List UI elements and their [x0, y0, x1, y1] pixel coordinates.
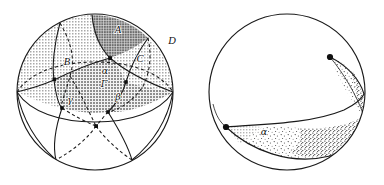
vertex-dot-icon — [53, 78, 57, 82]
label-C: C — [136, 53, 144, 64]
lune-dense-rim — [290, 116, 364, 157]
arc-hidden-node-down-right — [96, 126, 132, 160]
vertex-dot-icon — [60, 106, 64, 110]
label-gamma: γ — [67, 94, 73, 105]
vertex-dot-icon — [108, 56, 112, 60]
label-B: B — [64, 56, 71, 67]
arc-hidden-to-node-right — [96, 112, 108, 126]
lune-vertex-dots — [223, 54, 333, 130]
label-gamma-uppercase: Γ — [100, 78, 108, 89]
vertex-dot-icon — [94, 124, 98, 128]
arc-lune-upper — [226, 94, 364, 127]
vertex-dot-icon — [106, 110, 110, 114]
label-beta: β — [114, 91, 121, 102]
spherical-geometry-figure: A B C D α Γ γ β — [0, 0, 384, 185]
label-alpha: α — [102, 65, 109, 76]
vertex-dot-icon — [124, 80, 128, 84]
arc-lower-left — [54, 108, 62, 160]
arc-lune-lower-extension — [213, 104, 226, 127]
arc-lower-right — [108, 112, 132, 160]
panel-sphere-great-circles: A B C D α Γ γ β — [0, 0, 192, 185]
vertex-dot-icon — [223, 124, 229, 130]
label-alpha-lune: α — [261, 126, 268, 137]
right-sphere-interior — [213, 57, 364, 159]
label-A: A — [114, 24, 122, 35]
panel-sphere-lune: α — [192, 0, 384, 185]
label-D: D — [167, 35, 176, 46]
arc-hidden-node-down-left — [56, 126, 96, 160]
vertex-dot-icon — [327, 54, 333, 60]
